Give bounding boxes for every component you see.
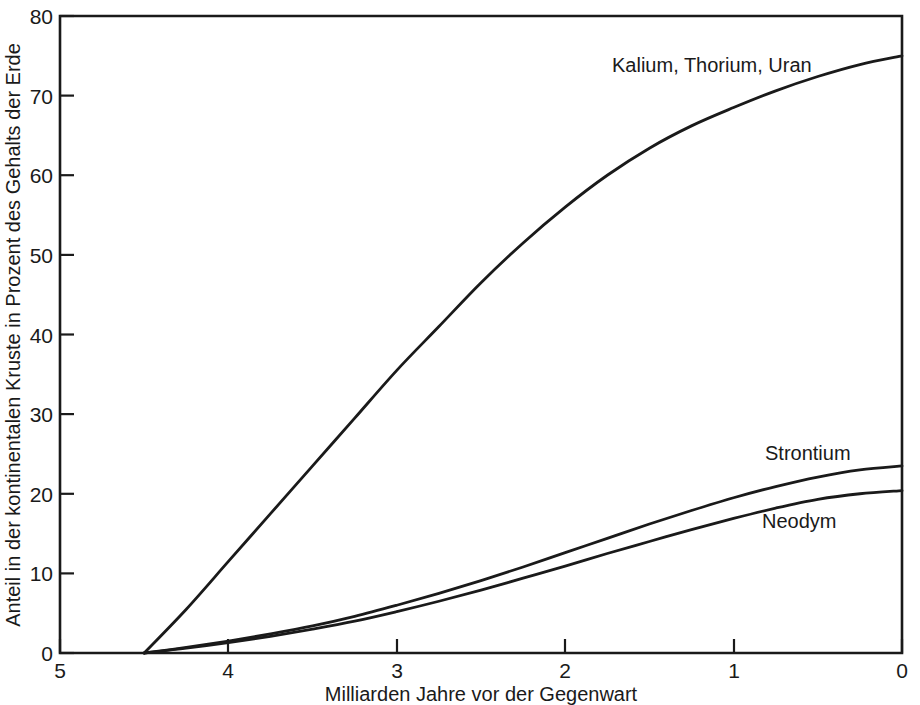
y-tick-label-20: 20	[30, 483, 53, 506]
y-tick-label-50: 50	[30, 244, 53, 267]
y-tick-label-0: 0	[41, 642, 53, 665]
y-tick-label-80: 80	[30, 5, 53, 28]
y-tick-label-60: 60	[30, 164, 53, 187]
y-axis-title: Anteil in der kontinentalen Kruste in Pr…	[2, 43, 24, 627]
y-tick-label-40: 40	[30, 324, 53, 347]
data-curves	[144, 56, 902, 653]
curve-kalium-thorium-uran	[144, 56, 902, 653]
series-label-neodym: Neodym	[762, 510, 836, 532]
series-label-strontium: Strontium	[765, 442, 851, 464]
chart-canvas: 80 70 60 50 40 30 20 10 0 5 4 3 2 1 0	[0, 0, 920, 705]
chart-figure: 80 70 60 50 40 30 20 10 0 5 4 3 2 1 0	[0, 0, 920, 705]
y-tick-label-10: 10	[30, 562, 53, 585]
y-tick-label-70: 70	[30, 85, 53, 108]
y-axis-ticks	[60, 16, 74, 653]
x-tick-label-1: 1	[728, 659, 740, 682]
x-axis-title: Milliarden Jahre vor der Gegenwart	[325, 683, 638, 705]
x-tick-label-4: 4	[222, 659, 234, 682]
x-axis-ticks	[60, 639, 902, 653]
x-tick-label-0: 0	[896, 659, 908, 682]
plot-frame	[60, 16, 902, 653]
curve-strontium	[144, 466, 902, 653]
y-axis-tick-labels: 80 70 60 50 40 30 20 10 0	[30, 5, 53, 665]
x-tick-label-3: 3	[391, 659, 403, 682]
x-tick-label-5: 5	[54, 659, 66, 682]
series-annotations: Kalium, Thorium, Uran Strontium Neodym	[612, 54, 851, 532]
y-tick-label-30: 30	[30, 403, 53, 426]
x-tick-label-2: 2	[559, 659, 571, 682]
x-axis-tick-labels: 5 4 3 2 1 0	[54, 659, 908, 682]
series-label-kalium-thorium-uran: Kalium, Thorium, Uran	[612, 54, 812, 76]
